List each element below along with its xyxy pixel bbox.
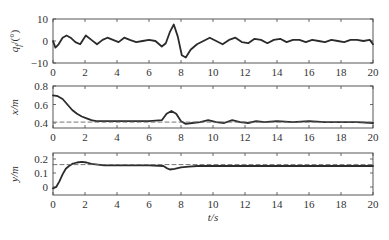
data-lines xyxy=(53,25,373,58)
y-axis-label-y: y/m xyxy=(8,166,20,183)
xtick-label: 8 xyxy=(178,198,184,210)
ytick-label: 0.4 xyxy=(34,117,48,129)
figure: 10 0 −10 02468101214161820 qf/(°) 0.8 0.… xyxy=(0,0,389,240)
xtick-label: 10 xyxy=(208,66,220,78)
xtick-label: 12 xyxy=(240,131,251,143)
xtick-label: 20 xyxy=(368,66,380,78)
xtick-label: 4 xyxy=(114,66,120,78)
xtick-label: 16 xyxy=(304,131,316,143)
xtick-label: 0 xyxy=(50,198,56,210)
xtick-label: 4 xyxy=(114,198,120,210)
ytick-label: 0.6 xyxy=(34,99,48,111)
panel-middle-x: 0.8 0.6 0.4 02468101214161820 x/m xyxy=(8,80,379,143)
x-axis-label-time: t/s xyxy=(208,211,218,223)
xtick-label: 10 xyxy=(208,198,220,210)
axes-frame xyxy=(53,153,373,195)
xtick-labels: 02468101214161820 xyxy=(50,66,379,78)
xtick-label: 2 xyxy=(82,131,88,143)
xtick-label: 20 xyxy=(368,198,380,210)
actual-line xyxy=(53,95,373,124)
xtick-label: 18 xyxy=(336,66,348,78)
actual-line xyxy=(53,25,373,58)
xtick-label: 14 xyxy=(272,66,284,78)
xtick-label: 14 xyxy=(272,131,284,143)
ytick-label: 0.1 xyxy=(34,167,48,179)
xtick-labels: 02468101214161820 xyxy=(50,198,379,210)
xtick-label: 16 xyxy=(304,198,316,210)
ytick-label: 0 xyxy=(43,35,49,47)
ytick-label: 0.8 xyxy=(34,80,48,92)
xtick-label: 8 xyxy=(178,66,184,78)
actual-line xyxy=(53,162,373,189)
xtick-label: 18 xyxy=(336,131,348,143)
xtick-label: 6 xyxy=(146,131,152,143)
data-lines xyxy=(53,95,373,124)
ytick-label: −10 xyxy=(31,57,49,69)
xtick-label: 12 xyxy=(240,198,251,210)
xtick-label: 16 xyxy=(304,66,316,78)
xtick-label: 14 xyxy=(272,198,284,210)
xtick-label: 2 xyxy=(82,66,88,78)
panel-bottom-y: 0.2 0.1 0 02468101214161820 y/m xyxy=(8,153,379,210)
xtick-label: 2 xyxy=(82,198,88,210)
xtick-label: 12 xyxy=(240,66,251,78)
y-axis-label-qf: qf/(°) xyxy=(8,29,23,52)
xtick-label: 20 xyxy=(368,131,380,143)
xtick-label: 0 xyxy=(50,131,56,143)
ytick-label: 10 xyxy=(37,13,49,25)
xtick-label: 6 xyxy=(146,198,152,210)
xtick-label: 4 xyxy=(114,131,120,143)
tick-marks xyxy=(53,153,373,195)
ytick-label: 0 xyxy=(43,181,49,193)
xtick-label: 8 xyxy=(178,131,184,143)
xtick-label: 10 xyxy=(208,131,220,143)
xtick-label: 18 xyxy=(336,198,348,210)
xtick-label: 6 xyxy=(146,66,152,78)
y-axis-label-x: x/m xyxy=(8,99,20,116)
xtick-labels: 02468101214161820 xyxy=(50,131,379,143)
panel-top-qf: 10 0 −10 02468101214161820 qf/(°) xyxy=(8,13,379,78)
ytick-label: 0.2 xyxy=(34,153,48,165)
data-lines xyxy=(53,162,373,189)
xtick-label: 0 xyxy=(50,66,56,78)
